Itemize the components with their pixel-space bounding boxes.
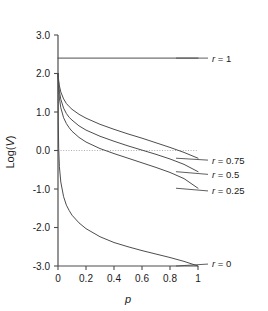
series-leader-line (176, 158, 208, 160)
series-leader-line (176, 188, 208, 191)
y-tick-label: 2.0 (36, 68, 50, 79)
series-labels-group: r = 1r = 0.75r = 0.5r = 0.25r = 0 (212, 53, 245, 270)
series-line (58, 74, 198, 267)
series-label: r = 0.5 (212, 169, 239, 180)
series-label: r = 0.25 (212, 185, 245, 196)
y-tick-label: -3.0 (33, 261, 51, 272)
x-tick-label: 1 (195, 273, 201, 284)
series-label: r = 0 (212, 258, 231, 269)
x-axis-title: p (124, 293, 131, 305)
y-tick-label: -2.0 (33, 222, 51, 233)
x-tick-label: 0 (55, 273, 61, 284)
series-line (58, 74, 198, 172)
chart-series-group (58, 58, 198, 266)
series-leader-line (176, 172, 208, 175)
y-tick-label: 1.0 (36, 107, 50, 118)
x-tick-label: 0.8 (163, 273, 177, 284)
y-tick-label: 3.0 (36, 30, 50, 41)
chart-figure: 00.20.40.60.81 -3.0-2.0-1.00.01.02.03.0 … (0, 0, 268, 311)
x-tick-label: 0.6 (135, 273, 149, 284)
x-tick-label: 0.4 (107, 273, 121, 284)
series-label: r = 0.75 (212, 155, 245, 166)
y-tick-label: 0.0 (36, 145, 50, 156)
y-axis-tick-labels: -3.0-2.0-1.00.01.02.03.0 (33, 30, 51, 272)
x-tick-label: 0.2 (79, 273, 93, 284)
y-axis-title: Log(V) (4, 135, 16, 168)
x-axis-tick-labels: 00.20.40.60.81 (55, 273, 201, 284)
chart-axes (54, 35, 198, 270)
y-tick-label: -1.0 (33, 184, 51, 195)
line-chart: 00.20.40.60.81 -3.0-2.0-1.00.01.02.03.0 … (0, 0, 268, 311)
series-label: r = 1 (212, 53, 231, 64)
series-line (58, 74, 198, 189)
series-leader-lines (176, 58, 208, 266)
